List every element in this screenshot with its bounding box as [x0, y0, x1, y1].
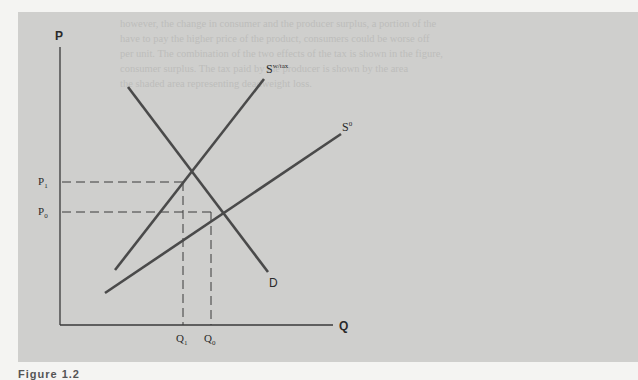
- demand-label: D: [269, 276, 278, 290]
- q-axis-label: Q: [339, 319, 348, 333]
- supply-original-text: S: [342, 120, 349, 134]
- p-axis-label: P: [55, 29, 63, 43]
- supply-original-label: S0: [342, 120, 352, 135]
- supply-tax-superscript: w/tax: [273, 62, 289, 70]
- supply-demand-diagram: [0, 0, 638, 380]
- p1-label: P1: [38, 175, 48, 190]
- supply-with-tax-curve: [115, 79, 264, 270]
- figure-caption: Figure 1.2: [18, 368, 80, 380]
- supply-original-superscript: 0: [349, 120, 353, 128]
- q1-label: Q1: [176, 332, 187, 347]
- q0-label: Q0: [204, 332, 215, 347]
- p0-subscript: 0: [44, 212, 48, 220]
- supply-tax-label: Sw/tax: [266, 62, 288, 77]
- supply-original-curve: [105, 134, 341, 293]
- p0-label: P0: [38, 205, 48, 220]
- q0-text: Q: [204, 332, 212, 344]
- q0-subscript: 0: [212, 339, 216, 347]
- p1-subscript: 1: [44, 182, 48, 190]
- supply-tax-text: S: [266, 62, 273, 76]
- demand-curve: [128, 87, 268, 272]
- q1-text: Q: [176, 332, 184, 344]
- q1-subscript: 1: [184, 339, 188, 347]
